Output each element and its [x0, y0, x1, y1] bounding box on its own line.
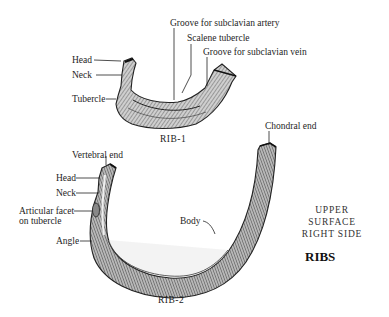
rib-1-tubercle-label: Tubercle [72, 94, 105, 104]
groove-subclavian-artery-label: Groove for subclavian artery [170, 18, 279, 28]
view-note-line-2: RIGHT SIDE [292, 228, 372, 240]
body-label: Body [180, 216, 201, 226]
vertebral-end-label: Vertebral end [72, 150, 123, 160]
rib-1-caption: RIB-1 [160, 134, 186, 144]
articular-facet-label-line1: Articular facet [19, 206, 74, 216]
articular-facet-label-line2: on tubercle [19, 216, 61, 226]
scalene-tubercle-label: Scalene tubercle [187, 33, 250, 43]
ribs-illustration: Head Neck Tubercle Groove for subclavian… [0, 0, 389, 317]
rib-1-neck-label: Neck [72, 70, 92, 80]
angle-label: Angle [56, 236, 79, 246]
rib-2-head-label: Head [56, 173, 76, 183]
view-note: UPPER SURFACE RIGHT SIDE [292, 204, 372, 240]
rib-2-neck-label: Neck [56, 188, 76, 198]
view-note-line-1: UPPER SURFACE [292, 204, 372, 228]
rib-2-caption: RIB-2 [158, 295, 184, 305]
figure-title: RIBS [305, 249, 335, 265]
rib-drawings [0, 0, 389, 317]
rib-1-head-label: Head [72, 55, 92, 65]
chondral-end-label: Chondral end [265, 121, 316, 131]
rib-1-drawing [116, 58, 236, 129]
groove-subclavian-vein-label: Groove for subclavian vein [203, 47, 307, 57]
